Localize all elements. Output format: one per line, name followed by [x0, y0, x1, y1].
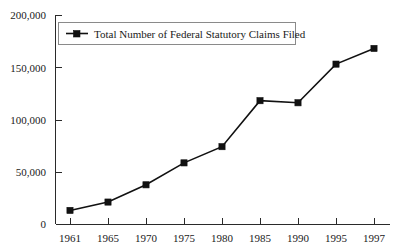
y-axis-tick-label: 150,000	[10, 62, 46, 74]
legend-entry-label: Total Number of Federal Statutory Claims…	[94, 28, 306, 40]
x-axis-tick-label: 1995	[325, 232, 348, 244]
y-axis-tick-label: 0	[41, 218, 47, 230]
series-line-total-federal-statutory-claims	[70, 48, 374, 210]
legend-sample-marker-icon	[74, 31, 81, 38]
y-axis-tick-label: 200,000	[10, 9, 46, 21]
x-axis-tick-label: 1970	[135, 232, 158, 244]
data-point-marker	[333, 61, 339, 67]
data-point-marker	[67, 207, 73, 213]
x-axis-tick-label: 1961	[59, 232, 81, 244]
data-point-marker	[181, 160, 187, 166]
data-point-marker	[257, 98, 263, 104]
data-point-marker	[143, 182, 149, 188]
x-axis-tick-label: 1975	[173, 232, 196, 244]
data-point-marker	[105, 199, 111, 205]
x-axis-tick-label: 1980	[211, 232, 234, 244]
chart-legend: Total Number of Federal Statutory Claims…	[59, 23, 306, 45]
x-axis-tick-label: 1965	[97, 232, 120, 244]
data-point-marker	[295, 100, 301, 106]
x-axis-tick-label: 1997	[363, 232, 386, 244]
y-axis-tick-label: 100,000	[10, 114, 46, 126]
y-axis-tick-label: 50,000	[16, 166, 47, 178]
data-point-marker	[371, 45, 377, 51]
data-point-marker	[219, 144, 225, 150]
line-chart-plot: 200,000 150,000 100,000 50,000 0 1961 19…	[0, 0, 398, 248]
x-axis-tick-label: 1985	[249, 232, 272, 244]
chart-container: 200,000 150,000 100,000 50,000 0 1961 19…	[0, 0, 398, 248]
x-axis-tick-label: 1990	[287, 232, 310, 244]
